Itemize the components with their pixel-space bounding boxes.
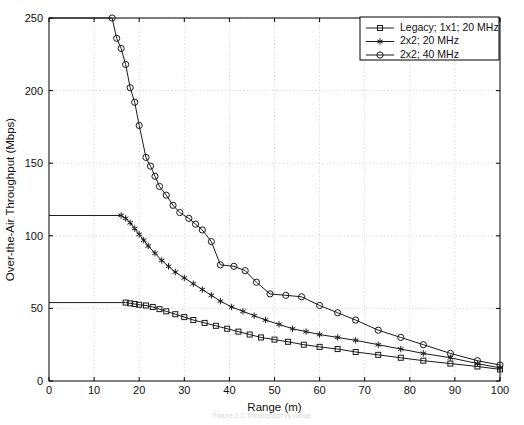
x-tick-label: 100 [491, 384, 509, 396]
data-point-star [209, 292, 215, 298]
data-point-star [240, 308, 246, 314]
y-tick-label: 200 [25, 85, 43, 97]
y-tick-label: 0 [37, 375, 43, 387]
legend-label-0: Legacy; 1x1; 20 MHz [400, 21, 499, 33]
figure-container: 0102030405060708090100050100150200250Ran… [0, 0, 524, 425]
data-point-star [200, 286, 206, 292]
x-tick-label: 50 [268, 384, 280, 396]
data-point-star [182, 275, 188, 281]
x-tick-label: 20 [133, 384, 145, 396]
y-axis-title: Over-the-Air Throughput (Mbps) [4, 118, 16, 282]
data-point-star [251, 312, 257, 318]
grid-lines [49, 18, 500, 381]
axis-labels: 0102030405060708090100050100150200250Ran… [4, 12, 509, 413]
x-tick-label: 0 [46, 384, 52, 396]
legend-label-1: 2x2; 20 MHz [400, 34, 459, 46]
x-tick-label: 40 [223, 384, 235, 396]
series-2 [49, 15, 503, 368]
data-point-star [218, 298, 224, 304]
x-tick-label: 80 [404, 384, 416, 396]
x-tick-label: 90 [449, 384, 461, 396]
legend-label-2: 2x2; 40 MHz [400, 48, 459, 60]
data-series [49, 15, 503, 372]
x-tick-label: 60 [313, 384, 325, 396]
y-tick-label: 50 [31, 302, 43, 314]
data-point-star [263, 317, 269, 323]
data-point-star [276, 321, 282, 327]
series-0 [49, 300, 503, 372]
y-tick-label: 250 [25, 12, 43, 24]
chart-plot: 0102030405060708090100050100150200250Ran… [0, 0, 524, 425]
chart-legend[interactable]: Legacy; 1x1; 20 MHz2x2; 20 MHz2x2; 40 MH… [360, 17, 499, 60]
data-point-star [191, 281, 197, 287]
y-tick-label: 150 [25, 157, 43, 169]
y-tick-label: 100 [25, 230, 43, 242]
x-tick-label: 10 [88, 384, 100, 396]
x-tick-label: 30 [178, 384, 190, 396]
x-tick-label: 70 [359, 384, 371, 396]
figure-caption: Figure 2.1 Throughput vs range [0, 412, 524, 419]
